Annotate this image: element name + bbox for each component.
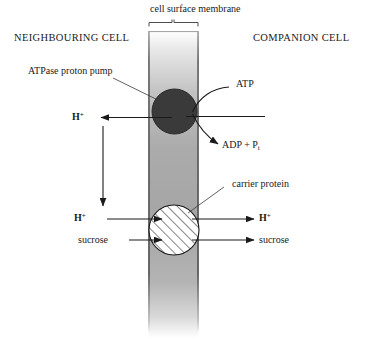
carrier-protein-shape xyxy=(149,205,199,255)
adp-pi-label: ADP + Pi xyxy=(222,140,260,152)
atp-label: ATP xyxy=(236,79,254,89)
adp-pi-main: ADP + P xyxy=(222,139,258,150)
adp-pi-subscript: i xyxy=(258,144,260,152)
companion-cell-label: COMPANION CELL xyxy=(253,33,349,44)
membrane-title: cell surface membrane xyxy=(150,4,241,14)
sucrose-label-left: sucrose xyxy=(78,235,108,245)
cell-surface-membrane xyxy=(148,31,199,338)
sucrose-loading-diagram: cell surface membrane NEIGHBOURING CELL … xyxy=(0,0,365,341)
proton-label-lower-left: H+ xyxy=(74,213,86,223)
atpase-proton-pump-label: ATPase proton pump xyxy=(28,66,112,76)
atpase-proton-pump-shape xyxy=(152,89,197,134)
diagram-canvas xyxy=(0,0,365,341)
membrane-bracket xyxy=(149,20,198,27)
proton-label-lower-right: H+ xyxy=(259,213,271,223)
carrier-protein-label: carrier protein xyxy=(232,179,289,189)
proton-label-upper-left: H+ xyxy=(72,112,84,122)
sucrose-label-right: sucrose xyxy=(259,235,289,245)
neighbouring-cell-label: NEIGHBOURING CELL xyxy=(14,33,129,44)
